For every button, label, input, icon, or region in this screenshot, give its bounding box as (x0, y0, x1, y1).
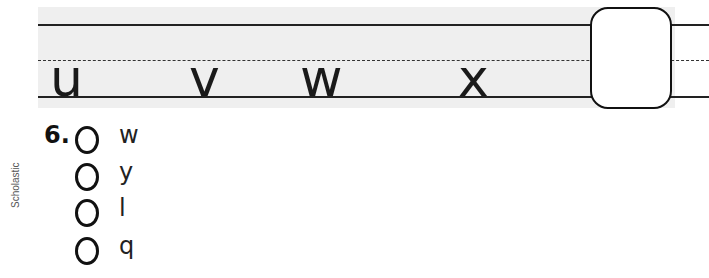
option-label: q (119, 232, 134, 260)
question-number: 6. (44, 121, 70, 149)
sequence-letter-2: v (189, 56, 220, 100)
sequence-letter-4: x (458, 56, 489, 100)
option-label: l (119, 194, 126, 222)
sequence-letter-1: u (50, 56, 83, 100)
radio-bubble-icon[interactable] (75, 237, 99, 265)
radio-bubble-icon[interactable] (75, 199, 99, 227)
radio-bubble-icon[interactable] (75, 163, 99, 191)
sequence-letter-3: w (300, 56, 343, 100)
answer-box[interactable] (590, 7, 672, 109)
publisher-credit: Scholastic (10, 162, 21, 208)
radio-bubble-icon[interactable] (75, 126, 99, 154)
option-label: w (119, 121, 139, 149)
writing-band (38, 7, 675, 108)
option-label: y (119, 158, 133, 186)
